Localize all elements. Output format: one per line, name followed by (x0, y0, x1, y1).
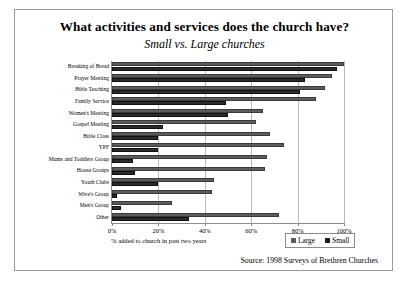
x-axis-label: % added to church in past two years (111, 237, 206, 244)
bar-group: Mums and Toddlers Group (112, 154, 344, 166)
bar-group: Wive's Group (112, 188, 344, 200)
bar-group: Bible Teaching (112, 84, 344, 96)
bar-small (112, 194, 117, 198)
x-axis-tick (205, 223, 206, 226)
bar-large (112, 155, 267, 159)
x-axis-tick-label: 40% (199, 227, 211, 234)
plot-area: 0%20%40%60%80%100% Breaking of BreadPray… (111, 61, 344, 224)
bar-small (112, 136, 158, 140)
category-label: Bible Class (83, 132, 109, 141)
x-axis-tick (158, 223, 159, 226)
chart-title: What activities and services does the ch… (15, 19, 394, 35)
category-label: Youth Clubs (81, 178, 109, 187)
bar-group: Family Service (112, 96, 344, 108)
bar-small (112, 171, 135, 175)
chart-legend: Large Small (285, 233, 355, 248)
legend-label-large: Large (298, 236, 315, 245)
legend-item-large: Large (291, 236, 315, 245)
chart-frame: What activities and services does the ch… (14, 9, 393, 271)
bar-small (112, 113, 228, 117)
category-label: Gospel Meeting (73, 120, 109, 129)
bar-small (112, 101, 226, 105)
bar-group: Breaking of Bread (112, 61, 344, 73)
source-note: Source: 1998 Surveys of Brethren Churche… (241, 256, 379, 265)
category-label: Men's Group (80, 201, 109, 210)
bar-small (112, 159, 133, 163)
bar-small (112, 206, 121, 210)
category-label: Prayer Meeting (74, 74, 109, 83)
plot-wrapper: 0%20%40%60%80%100% Breaking of BreadPray… (97, 61, 343, 223)
bar-small (112, 78, 305, 82)
category-label: Bible Teaching (75, 85, 109, 94)
bar-small (112, 67, 337, 71)
category-label: Other (96, 213, 109, 222)
bar-group: YPF (112, 142, 344, 154)
category-label: YPF (99, 143, 109, 152)
category-label: Women's Meeting (69, 109, 109, 118)
x-axis-tick (251, 223, 252, 226)
bar-group: Other (112, 211, 344, 223)
category-label: Mums and Toddlers Group (49, 155, 109, 164)
legend-item-small: Small (325, 236, 349, 245)
bar-group: Women's Meeting (112, 107, 344, 119)
bar-group: Prayer Meeting (112, 73, 344, 85)
bar-group: Youth Clubs (112, 177, 344, 189)
bar-group: Bible Class (112, 130, 344, 142)
bar-group: Men's Group (112, 200, 344, 212)
bar-small (112, 90, 300, 94)
bar-small (112, 182, 158, 186)
bar-small (112, 148, 158, 152)
legend-label-small: Small (332, 236, 349, 245)
x-axis-tick-label: 60% (245, 227, 257, 234)
gridline (344, 61, 345, 223)
bar-group: House Groups (112, 165, 344, 177)
x-axis-tick (112, 223, 113, 226)
x-axis-tick-label: 0% (108, 227, 117, 234)
bar-small (112, 217, 189, 221)
category-label: Wive's Group (78, 190, 109, 199)
bar-group: Gospel Meeting (112, 119, 344, 131)
legend-swatch-large-icon (291, 238, 296, 243)
category-label: Breaking of Bread (68, 62, 109, 71)
bar-large (112, 190, 212, 194)
bar-small (112, 125, 163, 129)
chart-figure: What activities and services does the ch… (0, 0, 407, 290)
legend-swatch-small-icon (325, 238, 330, 243)
chart-subtitle: Small vs. Large churches (15, 37, 394, 52)
category-label: House Groups (77, 166, 109, 175)
x-axis-tick (298, 223, 299, 226)
x-axis-tick (344, 223, 345, 226)
x-axis-tick-label: 20% (153, 227, 165, 234)
category-label: Family Service (75, 97, 109, 106)
